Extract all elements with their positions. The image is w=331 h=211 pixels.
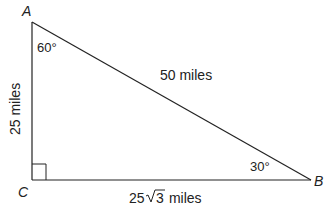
triangle-diagram: A C B 60° 30° 50 miles 25 miles 25 3 mil… [0, 0, 331, 211]
side-cb-label: 25 3 miles [129, 190, 202, 206]
side-ab-label: 50 miles [160, 67, 212, 83]
vertex-a-label: A [21, 3, 31, 19]
vertex-c-label: C [18, 184, 29, 200]
angle-a-label: 60° [37, 40, 57, 55]
side-cb-suffix: miles [165, 190, 202, 206]
side-cb-radicand: 3 [156, 190, 164, 206]
side-ac-label: 25 miles [7, 83, 23, 135]
angle-b-label: 30° [250, 159, 270, 174]
right-angle-marker [32, 164, 46, 180]
side-ab [32, 22, 311, 180]
vertex-b-label: B [314, 173, 323, 189]
side-cb-prefix: 25 [129, 190, 145, 206]
